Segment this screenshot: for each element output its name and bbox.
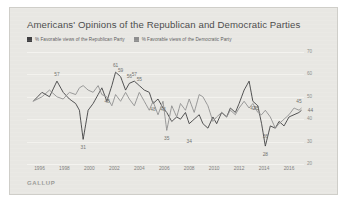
x-axis-tick-label: 2010 (209, 166, 220, 171)
source-attribution: GALLUP (27, 180, 55, 186)
y-axis-labels: 706050403020 (307, 48, 337, 168)
square-swatch-icon (134, 37, 139, 42)
legend-item-label: % Favorable views of the Republican Part… (35, 37, 125, 42)
x-axis-tick-label: 1998 (59, 166, 70, 171)
chart-title: Americans' Opinions of the Republican an… (27, 19, 300, 30)
chart-legend: % Favorable views of the Republican Part… (27, 37, 232, 42)
series-lines (27, 52, 304, 164)
legend-item-label: % Favorable views of the Democratic Part… (142, 37, 232, 42)
series-line (33, 72, 301, 146)
x-axis-tick-label: 2006 (159, 166, 170, 171)
x-axis-tick-label: 2008 (184, 166, 195, 171)
x-axis-tick-label: 2014 (259, 166, 270, 171)
y-axis-tick-label: 70 (307, 49, 312, 54)
legend-item-republican[interactable]: % Favorable views of the Republican Part… (27, 37, 125, 42)
x-axis-tick-label: 2002 (109, 166, 120, 171)
square-swatch-icon (27, 37, 32, 42)
x-axis-tick-label: 2000 (84, 166, 95, 171)
legend-item-democratic[interactable]: % Favorable views of the Democratic Part… (134, 37, 232, 42)
y-axis-tick-label: 40 (307, 116, 312, 121)
y-axis-tick-label: 20 (307, 161, 312, 166)
plot-area (27, 52, 304, 164)
y-axis-tick-label: 30 (307, 139, 312, 144)
x-axis-tick-label: 2012 (234, 166, 245, 171)
gridline (27, 164, 304, 165)
x-axis-tick-label: 1996 (34, 166, 45, 171)
y-axis-tick-label: 60 (307, 71, 312, 76)
x-axis-tick-label: 2016 (284, 166, 295, 171)
chart-figure: Americans' Opinions of the Republican an… (0, 0, 347, 210)
chart-card: Americans' Opinions of the Republican an… (9, 7, 338, 195)
y-axis-tick-label: 50 (307, 94, 312, 99)
x-axis-labels: 1996199820002002200420062008201020122014… (27, 166, 304, 178)
x-axis-tick-label: 2004 (134, 166, 145, 171)
